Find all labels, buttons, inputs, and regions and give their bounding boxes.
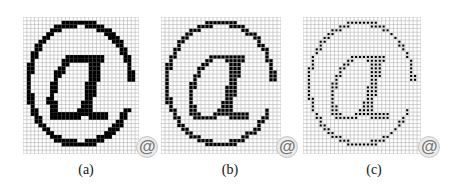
filled-pixel xyxy=(85,59,89,63)
filled-pixel xyxy=(339,29,341,31)
filled-pixel xyxy=(245,116,248,119)
filled-pixel xyxy=(402,117,404,119)
filled-pixel xyxy=(112,131,116,135)
filled-pixel xyxy=(355,143,357,145)
filled-pixel xyxy=(46,127,50,131)
filled-pixel xyxy=(269,78,272,81)
filled-pixel xyxy=(383,56,385,58)
filled-pixel xyxy=(347,22,349,24)
filled-pixel xyxy=(89,21,93,25)
filled-pixel xyxy=(375,60,377,62)
filled-pixel xyxy=(73,112,77,116)
filled-pixel xyxy=(46,36,50,40)
filled-pixel xyxy=(89,97,93,101)
filled-pixel xyxy=(197,135,200,138)
filled-pixel xyxy=(50,116,54,120)
filled-pixel xyxy=(237,74,240,77)
filled-pixel xyxy=(73,143,77,147)
filled-pixel xyxy=(124,116,128,120)
filled-pixel xyxy=(379,25,381,27)
filled-pixel xyxy=(77,143,81,147)
filled-pixel xyxy=(402,121,404,123)
filled-pixel xyxy=(127,70,131,74)
filled-pixel xyxy=(93,63,97,67)
pixel-grid-a xyxy=(23,17,139,154)
filled-pixel xyxy=(93,82,97,86)
filled-pixel xyxy=(241,59,244,62)
filled-pixel xyxy=(189,86,192,89)
filled-pixel xyxy=(77,59,81,63)
filled-pixel xyxy=(339,71,341,73)
filled-pixel xyxy=(112,40,116,44)
filled-pixel xyxy=(229,143,232,146)
filled-pixel xyxy=(410,60,412,62)
filled-pixel xyxy=(229,63,232,66)
filled-pixel xyxy=(308,94,310,96)
filled-pixel xyxy=(50,131,54,135)
filled-pixel xyxy=(241,25,244,28)
filled-pixel xyxy=(27,101,31,105)
filled-pixel xyxy=(383,60,385,62)
filled-pixel xyxy=(35,116,39,120)
filled-pixel xyxy=(237,55,240,58)
filled-pixel xyxy=(312,105,314,107)
filled-pixel xyxy=(225,55,228,58)
filled-pixel xyxy=(66,63,70,67)
filled-pixel xyxy=(257,124,260,127)
filled-pixel xyxy=(89,143,93,147)
filled-pixel xyxy=(165,97,168,100)
filled-pixel xyxy=(69,112,73,116)
filled-pixel xyxy=(131,78,135,82)
filled-pixel xyxy=(35,51,39,55)
filled-pixel xyxy=(308,67,310,69)
panel-label-b: (b) xyxy=(210,162,250,178)
filled-pixel xyxy=(367,56,369,58)
filled-pixel xyxy=(229,101,232,104)
filled-pixel xyxy=(108,131,112,135)
filled-pixel xyxy=(197,112,200,115)
filled-pixel xyxy=(371,86,373,88)
filled-pixel xyxy=(62,63,66,67)
filled-pixel xyxy=(89,70,93,74)
filled-pixel xyxy=(96,116,100,120)
filled-pixel xyxy=(100,135,104,139)
filled-pixel xyxy=(120,116,124,120)
filled-pixel xyxy=(81,108,85,112)
filled-pixel xyxy=(375,64,377,66)
filled-pixel xyxy=(402,48,404,50)
filled-pixel xyxy=(58,112,62,116)
filled-pixel xyxy=(375,140,377,142)
filled-pixel xyxy=(116,120,120,124)
filled-pixel xyxy=(58,116,62,120)
filled-pixel xyxy=(371,60,373,62)
filled-pixel xyxy=(73,139,77,143)
filled-pixel xyxy=(241,139,244,142)
filled-pixel xyxy=(189,135,192,138)
filled-pixel xyxy=(383,29,385,31)
filled-pixel xyxy=(335,29,337,31)
filled-pixel xyxy=(124,112,128,116)
filled-pixel xyxy=(89,74,93,78)
filled-pixel xyxy=(355,113,357,115)
filled-pixel xyxy=(233,78,236,81)
filled-pixel xyxy=(31,70,35,74)
filled-pixel xyxy=(100,116,104,120)
filled-pixel xyxy=(265,52,268,55)
filled-pixel xyxy=(375,143,377,145)
filled-pixel xyxy=(31,108,35,112)
filled-pixel xyxy=(375,71,377,73)
filled-pixel xyxy=(398,124,400,126)
filled-pixel xyxy=(89,82,93,86)
filled-pixel xyxy=(320,124,322,126)
filled-pixel xyxy=(58,70,62,74)
filled-pixel xyxy=(265,112,268,115)
filled-pixel xyxy=(31,59,35,63)
filled-pixel xyxy=(62,143,66,147)
filled-pixel xyxy=(193,82,196,85)
filled-pixel xyxy=(201,116,204,119)
filled-pixel xyxy=(237,59,240,62)
filled-pixel xyxy=(185,128,188,131)
filled-pixel xyxy=(273,78,276,81)
filled-pixel xyxy=(104,116,108,120)
filled-pixel xyxy=(265,55,268,58)
